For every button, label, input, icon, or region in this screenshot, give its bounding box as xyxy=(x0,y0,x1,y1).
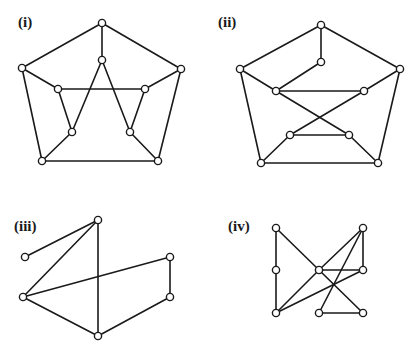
graph-iii-vertex xyxy=(166,293,173,300)
graph-ii-vertex xyxy=(317,21,324,28)
graph-iii-edge xyxy=(25,220,98,257)
graph-ii-vertex xyxy=(360,87,367,94)
graph-i-edge xyxy=(130,132,158,161)
graph-iii-edge xyxy=(23,297,98,336)
graph-ii-edge xyxy=(349,135,378,163)
graph-i-edge xyxy=(145,69,181,89)
graph-iii xyxy=(19,216,173,339)
graph-iv-vertex xyxy=(359,224,366,231)
graph-iv-edge xyxy=(276,270,363,313)
graph-ii-vertex xyxy=(345,131,352,138)
graph-ii-edge xyxy=(240,25,321,69)
graph-iii-edge xyxy=(23,257,170,297)
graph-iii-edge xyxy=(98,297,170,336)
graph-i-vertex xyxy=(154,157,161,164)
graph-iii-vertex xyxy=(21,253,28,260)
graph-i-vertex xyxy=(177,65,184,72)
graph-ii-vertex xyxy=(236,65,243,72)
graph-iii-vertex xyxy=(94,332,101,339)
graph-ii-edge xyxy=(261,135,290,163)
graph-ii-vertex xyxy=(286,131,293,138)
graph-ii xyxy=(236,21,403,166)
graph-i-vertex xyxy=(54,85,61,92)
graph-i-vertex xyxy=(98,19,105,26)
graph-iii-vertex xyxy=(19,293,26,300)
graph-i-vertex xyxy=(98,56,105,63)
graph-iv-vertex xyxy=(315,266,322,273)
graph-ii-edge xyxy=(276,91,349,135)
graph-i-vertex xyxy=(38,157,45,164)
graph-i-vertex xyxy=(141,85,148,92)
graph-i-edge xyxy=(22,68,42,161)
graph-ii-vertex xyxy=(257,159,264,166)
graph-i-edge xyxy=(102,23,181,69)
graph-ii-vertex xyxy=(272,87,279,94)
graph-i-vertex xyxy=(18,64,25,71)
graph-ii-edge xyxy=(240,69,276,91)
graph-iii-vertex xyxy=(94,216,101,223)
graph-iv-vertex xyxy=(272,224,279,231)
graph-i-edge xyxy=(22,23,102,68)
graph-i-edge xyxy=(158,69,181,161)
graph-ii-edge xyxy=(276,62,321,91)
graph-ii-edge xyxy=(321,25,400,69)
graph-iv xyxy=(272,224,366,316)
graph-iv-vertex xyxy=(272,309,279,316)
graph-ii-vertex xyxy=(396,65,403,72)
graph-i-edge xyxy=(22,68,58,89)
graph-iv-edge xyxy=(276,270,319,313)
graph-ii-vertex xyxy=(317,58,324,65)
graph-i xyxy=(18,19,184,164)
graph-ii-edge xyxy=(240,69,261,163)
graph-i-edge xyxy=(42,132,72,161)
graph-iv-edge xyxy=(276,228,319,270)
graph-i-vertex xyxy=(126,128,133,135)
graph-i-vertex xyxy=(68,128,75,135)
graph-i-edge xyxy=(102,60,130,132)
graph-iv-edge xyxy=(319,270,363,313)
graph-ii-edge xyxy=(378,69,400,163)
graph-ii-edge xyxy=(364,69,400,91)
graph-iv-edge xyxy=(319,228,363,270)
graph-iv-vertex xyxy=(359,309,366,316)
graph-iii-edge xyxy=(23,220,98,297)
graph-i-edge xyxy=(58,89,72,132)
graph-iii-vertex xyxy=(166,253,173,260)
graph-ii-edge xyxy=(290,91,364,135)
graph-iv-vertex xyxy=(359,266,366,273)
graph-i-edge xyxy=(130,89,145,132)
graph-diagram-canvas xyxy=(0,0,419,356)
graph-i-edge xyxy=(72,60,102,132)
graph-iv-vertex xyxy=(272,266,279,273)
graph-iv-vertex xyxy=(315,309,322,316)
graph-ii-vertex xyxy=(374,159,381,166)
